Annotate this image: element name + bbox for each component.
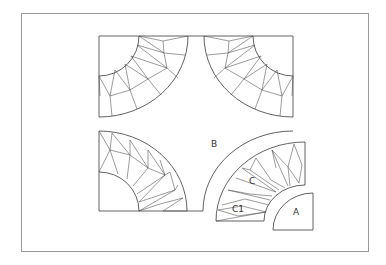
bottom-left-arc-triangles — [99, 131, 187, 211]
label-c: C — [249, 177, 255, 186]
c-arc-triangles — [216, 144, 302, 221]
label-c1: C1 — [232, 205, 244, 214]
label-b: B — [211, 140, 217, 149]
diagram-stage: B C C1 A — [0, 0, 386, 265]
label-a: A — [293, 208, 299, 217]
outer-frame — [22, 14, 369, 252]
top-right-arc-triangles — [204, 36, 293, 116]
quilt-diagram — [0, 0, 386, 265]
top-half-block — [99, 36, 293, 117]
top-left-arc-triangles — [99, 36, 188, 116]
